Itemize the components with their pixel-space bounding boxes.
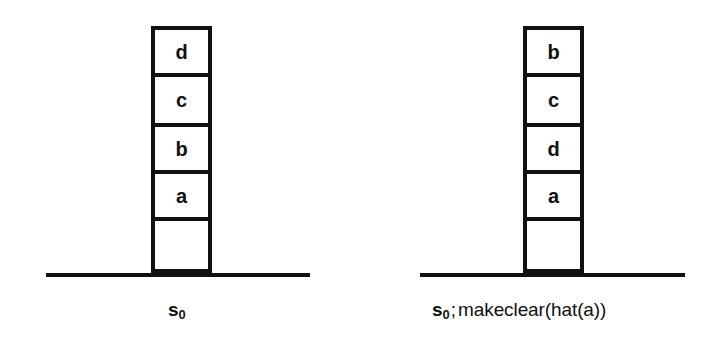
caption-symbol: s xyxy=(432,299,443,320)
block-label: c xyxy=(548,90,559,110)
block-stack-right: b c d a xyxy=(523,26,584,273)
caption-separator: ; xyxy=(450,299,458,320)
block-right-2: d xyxy=(523,123,584,170)
caption-subscript: 0 xyxy=(443,307,450,322)
block-label: a xyxy=(176,186,187,206)
block-left-0: d xyxy=(151,26,212,73)
block-label: a xyxy=(548,186,559,206)
caption-right: s0;makeclear(hat(a)) xyxy=(432,300,606,319)
block-right-4-empty xyxy=(523,217,584,273)
caption-symbol: s xyxy=(168,299,179,320)
caption-operation: makeclear(hat(a)) xyxy=(458,299,606,320)
block-stack-left: d c b a xyxy=(151,26,212,273)
block-label: b xyxy=(547,42,559,62)
caption-subscript: 0 xyxy=(179,307,186,322)
table-surface-line-left xyxy=(46,273,310,277)
block-right-0: b xyxy=(523,26,584,73)
blocks-world-figure: d c b a s0 b c d a xyxy=(0,0,721,343)
table-surface-line-right xyxy=(420,273,685,277)
block-label: d xyxy=(175,42,187,62)
block-label: d xyxy=(547,139,559,159)
block-label: b xyxy=(175,139,187,159)
block-left-2: b xyxy=(151,123,212,170)
block-left-4-empty xyxy=(151,217,212,273)
block-left-1: c xyxy=(151,73,212,123)
block-label: c xyxy=(176,90,187,110)
block-right-3: a xyxy=(523,170,584,217)
block-left-3: a xyxy=(151,170,212,217)
caption-left: s0 xyxy=(168,300,186,319)
block-right-1: c xyxy=(523,73,584,123)
